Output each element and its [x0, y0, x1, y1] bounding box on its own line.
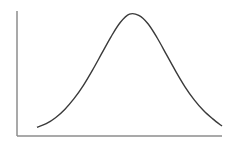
bell-curve-chart — [0, 0, 234, 145]
chart-plot-area — [0, 0, 234, 145]
bell-curve-line — [37, 14, 222, 128]
